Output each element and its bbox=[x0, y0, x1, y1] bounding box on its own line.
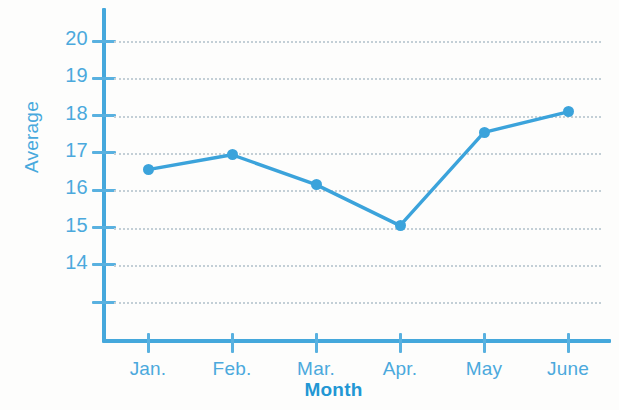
y-axis-line bbox=[102, 8, 106, 341]
y-axis-tick-label: 18 bbox=[44, 102, 88, 125]
gridline bbox=[114, 190, 601, 192]
x-axis-tick bbox=[231, 333, 234, 353]
gridline bbox=[114, 116, 601, 118]
gridline bbox=[114, 41, 601, 43]
x-axis-title: Month bbox=[0, 379, 619, 401]
x-axis-tick bbox=[315, 333, 318, 353]
y-axis-tick bbox=[92, 77, 116, 80]
data-point bbox=[227, 149, 238, 160]
x-axis-tick-label: June bbox=[523, 358, 613, 380]
x-axis-tick bbox=[567, 333, 570, 353]
x-axis-tick-label: Feb. bbox=[187, 358, 277, 380]
y-axis-tick-label: 16 bbox=[44, 176, 88, 199]
y-axis-tick bbox=[92, 189, 116, 192]
line-chart: Average 20191817161514 Jan.Feb.Mar.Apr.M… bbox=[0, 0, 619, 410]
x-axis-tick-label: Mar. bbox=[271, 358, 361, 380]
x-axis-tick-label: Apr. bbox=[355, 358, 445, 380]
x-axis-line bbox=[102, 339, 611, 343]
x-axis-tick bbox=[483, 333, 486, 353]
data-point bbox=[395, 220, 406, 231]
gridline bbox=[114, 302, 601, 304]
y-axis-tick bbox=[92, 114, 116, 117]
gridline bbox=[114, 265, 601, 267]
x-axis-tick bbox=[147, 333, 150, 353]
gridline bbox=[114, 153, 601, 155]
gridline bbox=[114, 78, 601, 80]
y-axis-tick-label: 15 bbox=[44, 214, 88, 237]
y-axis-tick bbox=[92, 301, 116, 304]
y-axis-tick-label: 14 bbox=[44, 251, 88, 274]
y-axis-tick bbox=[92, 226, 116, 229]
y-axis-tick-label: 19 bbox=[44, 64, 88, 87]
x-axis-tick-label: Jan. bbox=[103, 358, 193, 380]
data-series-line bbox=[0, 0, 619, 410]
data-point bbox=[143, 164, 154, 175]
y-axis-tick bbox=[92, 263, 116, 266]
data-point bbox=[311, 179, 322, 190]
x-axis-tick-label: May bbox=[439, 358, 529, 380]
gridline bbox=[114, 228, 601, 230]
y-axis-tick bbox=[92, 40, 116, 43]
y-axis-tick-label: 20 bbox=[44, 27, 88, 50]
x-axis-tick bbox=[399, 333, 402, 353]
data-point bbox=[563, 106, 574, 117]
y-axis-tick bbox=[92, 151, 116, 154]
y-axis-tick-label: 17 bbox=[44, 139, 88, 162]
plot-area: 20191817161514 Jan.Feb.Mar.Apr.MayJune bbox=[0, 0, 619, 410]
data-point bbox=[479, 127, 490, 138]
